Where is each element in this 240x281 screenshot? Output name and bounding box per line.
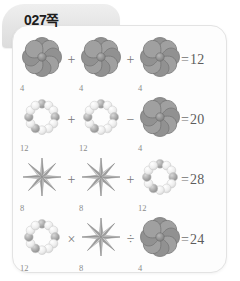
beaded-ring-icon — [140, 157, 180, 197]
flower-icon — [140, 37, 180, 77]
term-count-label: 4 — [138, 264, 142, 273]
equation-term: 12 — [139, 156, 181, 208]
term-count-label: 4 — [79, 84, 83, 93]
beaded-ring-icon — [81, 97, 121, 137]
operator-symbol: + — [122, 173, 139, 187]
term-count-label: 4 — [138, 84, 142, 93]
result-value: 28 — [190, 173, 205, 187]
operator-symbol: + — [63, 173, 80, 187]
equation-term: 4 — [80, 36, 122, 88]
term-count-label: 12 — [138, 204, 147, 213]
flower-icon — [140, 217, 180, 257]
equation-row-2: 12+12−4=20 — [13, 92, 226, 152]
term-count-label: 8 — [79, 204, 83, 213]
operator-symbol: + — [63, 113, 80, 127]
equals-sign: = — [181, 53, 189, 67]
equation-term: 4 — [139, 96, 181, 148]
equation-term: 4 — [139, 36, 181, 88]
equation-term: 12 — [80, 96, 122, 148]
equals-sign: = — [181, 113, 189, 127]
term-count-label: 12 — [20, 144, 29, 153]
equations-card: 4+4+4=12 12+12−4=20 8+8+12=28 12×8÷4=24 — [12, 25, 227, 273]
eight-point-star-icon — [22, 157, 62, 197]
result-value: 20 — [190, 113, 205, 127]
eight-point-star-icon — [81, 157, 121, 197]
flower-icon — [22, 37, 62, 77]
equation-result: =24 — [181, 233, 205, 247]
term-count-label: 8 — [79, 264, 83, 273]
operator-symbol: − — [122, 113, 139, 127]
equation-result: =28 — [181, 173, 205, 187]
equals-sign: = — [181, 173, 189, 187]
flower-icon — [81, 37, 121, 77]
equation-term: 8 — [80, 216, 122, 268]
beaded-ring-icon — [22, 217, 62, 257]
term-count-label: 4 — [20, 84, 24, 93]
equation-term: 8 — [21, 156, 63, 208]
equation-term: 4 — [21, 36, 63, 88]
operator-symbol: ÷ — [122, 233, 139, 247]
beaded-ring-icon — [22, 97, 62, 137]
equation-row-1: 4+4+4=12 — [13, 32, 226, 92]
equation-result: =20 — [181, 113, 205, 127]
page-number-label: 027쪽 — [24, 9, 59, 29]
equation-term: 12 — [21, 216, 63, 268]
operator-symbol: + — [63, 53, 80, 67]
term-count-label: 12 — [20, 264, 29, 273]
equation-term: 4 — [139, 216, 181, 268]
term-count-label: 4 — [138, 144, 142, 153]
result-value: 24 — [190, 233, 205, 247]
equation-term: 8 — [80, 156, 122, 208]
equals-sign: = — [181, 233, 189, 247]
operator-symbol: × — [63, 233, 80, 247]
term-count-label: 12 — [79, 144, 88, 153]
result-value: 12 — [190, 53, 205, 67]
equation-row-4: 12×8÷4=24 — [13, 212, 226, 272]
eight-point-star-icon — [81, 217, 121, 257]
flower-icon — [140, 97, 180, 137]
operator-symbol: + — [122, 53, 139, 67]
equation-term: 12 — [21, 96, 63, 148]
term-count-label: 8 — [20, 204, 24, 213]
worksheet-page: 027쪽 4+4+4=12 12+12−4=20 8+8+12=28 12×8÷… — [0, 0, 240, 281]
equation-row-3: 8+8+12=28 — [13, 152, 226, 212]
equation-result: =12 — [181, 53, 205, 67]
